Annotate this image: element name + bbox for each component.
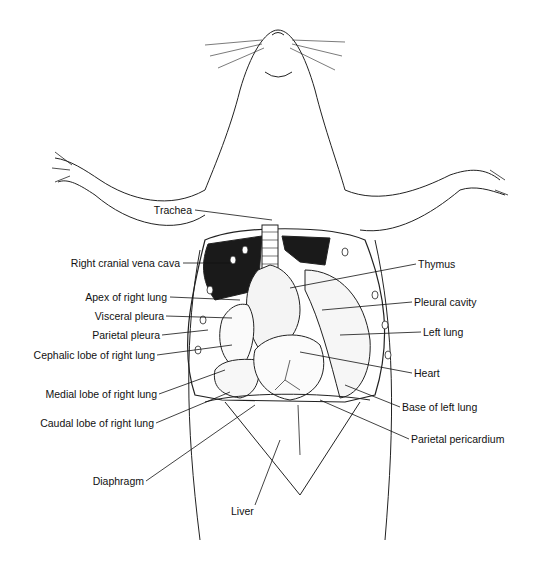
label-cephalic-lobe-of-right-lung: Cephalic lobe of right lung xyxy=(34,349,155,361)
label-right-cranial-vena-cava: Right cranial vena cava xyxy=(71,257,180,269)
rat-dissection-illustration xyxy=(0,0,539,566)
label-apex-of-right-lung: Apex of right lung xyxy=(85,291,167,303)
label-medial-lobe-of-right-lung: Medial lobe of right lung xyxy=(46,388,158,400)
anatomy-diagram: Trachea Right cranial vena cava Apex of … xyxy=(0,0,539,566)
label-liver: Liver xyxy=(231,505,254,517)
label-base-of-left-lung: Base of left lung xyxy=(402,401,477,413)
label-left-lung: Left lung xyxy=(423,326,463,338)
label-parietal-pleura: Parietal pleura xyxy=(92,329,160,341)
label-trachea: Trachea xyxy=(154,204,192,216)
label-pleural-cavity: Pleural cavity xyxy=(414,296,476,308)
label-heart: Heart xyxy=(414,367,440,379)
label-visceral-pleura: Visceral pleura xyxy=(95,310,164,322)
label-diaphragm: Diaphragm xyxy=(93,475,144,487)
label-parietal-pericardium: Parietal pericardium xyxy=(411,433,504,445)
label-thymus: Thymus xyxy=(418,258,455,270)
label-caudal-lobe-of-right-lung: Caudal lobe of right lung xyxy=(40,417,154,429)
